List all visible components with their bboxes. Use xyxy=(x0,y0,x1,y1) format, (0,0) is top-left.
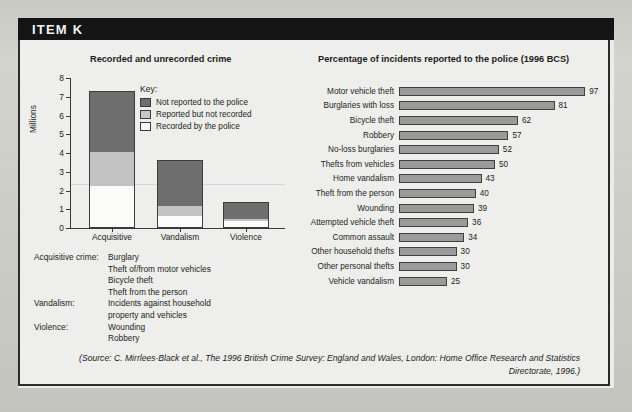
item-title: ITEM K xyxy=(32,22,83,37)
bar xyxy=(399,277,447,286)
horizontal-bar-chart: Motor vehicle theft97Burglaries with los… xyxy=(308,84,608,288)
bar-category-label: Theft from the person xyxy=(308,189,399,198)
segment-not-reported xyxy=(223,202,269,219)
definition-row: Acquisitive crime:Burglary xyxy=(34,252,294,264)
bar-row: Home vandalism43 xyxy=(308,172,608,187)
bar-row: Wounding39 xyxy=(308,201,608,216)
definition-text: Incidents against household xyxy=(108,298,294,310)
bar-value-label: 52 xyxy=(499,145,512,154)
y-tick-label: 5 xyxy=(59,129,64,139)
segment-reported-not-recorded xyxy=(157,206,203,215)
definition-term xyxy=(34,264,108,276)
bar-category-label: Motor vehicle theft xyxy=(308,87,399,96)
crime-definitions: Acquisitive crime:BurglaryTheft of/from … xyxy=(34,252,294,345)
key-title: Key: xyxy=(140,84,300,94)
bar-row: Bicycle theft62 xyxy=(308,113,608,128)
definition-text: Robbery xyxy=(108,333,294,345)
bar-value-label: 81 xyxy=(555,101,568,110)
bar xyxy=(399,145,499,154)
source-line-2: Office Research and Statistics Directora… xyxy=(465,353,580,376)
bar-category-label: Thefts from vehicles xyxy=(308,160,399,169)
dark-gray-swatch-icon xyxy=(140,98,151,107)
key-item-not-reported: Not reported to the police xyxy=(140,98,300,107)
bar-value-label: 62 xyxy=(518,116,531,125)
bar xyxy=(399,233,464,242)
bar-value-label: 97 xyxy=(585,87,598,96)
bar-value-label: 30 xyxy=(457,262,470,271)
definition-row: Violence:Wounding xyxy=(34,322,294,334)
definition-term: Vandalism: xyxy=(34,298,108,310)
key-item-reported-not-recorded: Reported but not recorded xyxy=(140,110,300,119)
definition-row: Robbery xyxy=(34,333,294,345)
definition-text: Wounding xyxy=(108,322,294,334)
bar xyxy=(399,189,476,198)
definition-text: Theft from the person xyxy=(108,287,294,299)
stacked-bar xyxy=(89,91,135,228)
definition-row: Theft from the person xyxy=(34,287,294,299)
definition-text: Burglary xyxy=(108,252,294,264)
bar xyxy=(399,131,508,140)
right-chart-title: Percentage of incidents reported to the … xyxy=(318,54,569,64)
segment-not-reported xyxy=(157,160,203,207)
bar xyxy=(399,101,555,110)
definition-row: Theft of/from motor vehicles xyxy=(34,264,294,276)
bar-row: No-loss burglaries52 xyxy=(308,142,608,157)
definition-term: Acquisitive crime: xyxy=(34,252,108,264)
bar-value-label: 43 xyxy=(482,174,495,183)
definition-row: property and vehicles xyxy=(34,310,294,322)
x-tick-mark xyxy=(180,228,181,232)
bar-category-label: Other personal thefts xyxy=(308,262,399,271)
light-gray-swatch-icon xyxy=(140,110,151,119)
definition-term xyxy=(34,333,108,345)
bar-row: Attempted vehicle theft36 xyxy=(308,215,608,230)
bar-row: Other household thefts30 xyxy=(308,245,608,260)
bar-value-label: 36 xyxy=(468,218,481,227)
bar-row: Motor vehicle theft97 xyxy=(308,84,608,99)
bar-row: Common assault34 xyxy=(308,230,608,245)
bar-value-label: 50 xyxy=(495,160,508,169)
bar xyxy=(399,116,518,125)
y-tick-label: 0 xyxy=(59,223,64,233)
source-citation: (Source: C. Mirrlees-Black et al., The 1… xyxy=(68,352,580,377)
bar xyxy=(399,174,482,183)
key-label-reported-not-recorded: Reported but not recorded xyxy=(156,110,252,119)
definition-term xyxy=(34,287,108,299)
definition-term: Violence: xyxy=(34,322,108,334)
bar-category-label: Burglaries with loss xyxy=(308,101,399,110)
segment-recorded xyxy=(157,216,203,228)
bar-category-label: Vehicle vandalism xyxy=(308,277,399,286)
bar xyxy=(399,160,495,169)
y-tick-label: 8 xyxy=(59,73,64,83)
x-category-label: Vandalism xyxy=(145,232,215,242)
bar-row: Robbery57 xyxy=(308,128,608,143)
y-tick-label: 1 xyxy=(59,204,64,214)
bar-row: Other personal thefts30 xyxy=(308,259,608,274)
x-axis-line xyxy=(70,228,285,229)
left-chart-title: Recorded and unrecorded crime xyxy=(90,54,231,64)
bar xyxy=(399,218,468,227)
y-tick-label: 7 xyxy=(59,92,64,102)
segment-reported-not-recorded xyxy=(89,152,135,186)
definition-row: Vandalism:Incidents against household xyxy=(34,298,294,310)
bar-row: Thefts from vehicles50 xyxy=(308,157,608,172)
bar-row: Burglaries with loss81 xyxy=(308,99,608,114)
x-category-label: Violence xyxy=(211,232,281,242)
bar-value-label: 30 xyxy=(457,247,470,256)
bar-value-label: 39 xyxy=(474,204,487,213)
definition-text: property and vehicles xyxy=(108,310,294,322)
key-label-not-reported: Not reported to the police xyxy=(156,98,248,107)
source-line-1: (Source: C. Mirrlees-Black et al., The 1… xyxy=(79,353,462,363)
definition-text: Theft of/from motor vehicles xyxy=(108,264,294,276)
bar-category-label: Common assault xyxy=(308,233,399,242)
key-item-recorded: Recorded by the police xyxy=(140,122,300,131)
item-header-bar: ITEM K xyxy=(18,18,614,40)
bar-category-label: Attempted vehicle theft xyxy=(308,218,399,227)
bar xyxy=(399,247,457,256)
y-axis-ticks: 876543210 xyxy=(44,78,70,228)
bar xyxy=(399,204,474,213)
bar-category-label: Wounding xyxy=(308,204,399,213)
bar-category-label: Bicycle theft xyxy=(308,116,399,125)
bar-category-label: Robbery xyxy=(308,131,399,140)
key-label-recorded: Recorded by the police xyxy=(156,122,240,131)
bar-category-label: Home vandalism xyxy=(308,174,399,183)
